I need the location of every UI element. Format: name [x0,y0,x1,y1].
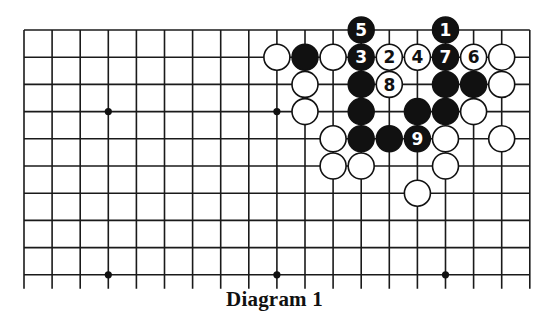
black-stone-move-7: 7 [433,44,459,70]
white-stone [320,44,346,70]
black-stone [348,126,374,152]
white-stone [348,153,374,179]
white-stone-move-4: 4 [404,44,430,70]
white-stone-move-8: 8 [376,71,402,97]
black-stone [461,71,487,97]
black-stone-move-5: 5 [348,17,374,43]
white-stone-move-2: 2 [376,44,402,70]
black-stone [292,44,318,70]
move-number: 9 [411,129,423,149]
white-stone [320,126,346,152]
white-stone [461,99,487,125]
black-stone [376,126,402,152]
white-stone [433,126,459,152]
white-stone [489,44,515,70]
black-stone [433,99,459,125]
white-stone [264,44,290,70]
black-stone-move-1: 1 [433,17,459,43]
move-number: 5 [355,20,367,40]
star-point [105,271,112,278]
move-number: 2 [383,47,395,67]
move-number: 8 [383,75,395,95]
move-number: 6 [468,47,480,67]
star-point [442,271,449,278]
black-stone-move-9: 9 [404,126,430,152]
white-stone [433,153,459,179]
white-stone [292,99,318,125]
star-point [273,271,280,278]
move-number: 1 [440,20,452,40]
black-stone [348,71,374,97]
star-point [105,108,112,115]
black-stone-move-3: 3 [348,44,374,70]
move-number: 3 [355,47,367,67]
white-stone [292,71,318,97]
white-stone [320,153,346,179]
diagram-caption: Diagram 1 [0,287,549,312]
go-board-diagram: 123456789 [0,0,549,328]
white-stone [489,71,515,97]
black-stone [433,71,459,97]
black-stone [348,99,374,125]
star-point [273,108,280,115]
white-stone [404,180,430,206]
move-number: 7 [440,47,452,67]
white-stone [489,126,515,152]
white-stone-move-6: 6 [461,44,487,70]
black-stone [404,99,430,125]
move-number: 4 [411,47,423,67]
